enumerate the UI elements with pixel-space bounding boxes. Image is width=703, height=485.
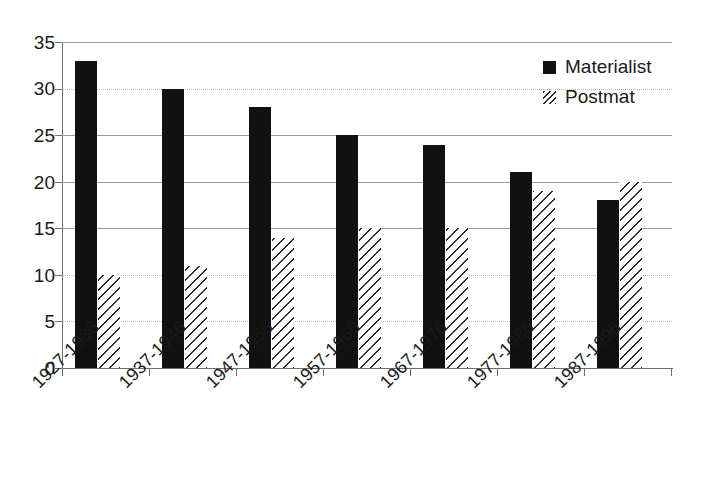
y-tick-label: 30	[20, 78, 55, 100]
bar-postmat	[97, 275, 120, 368]
gridline-35	[62, 42, 672, 43]
bar-postmat	[358, 228, 381, 368]
x-tick-mark	[671, 368, 672, 376]
legend-item-materialist: Materialist	[543, 52, 693, 82]
y-tick-mark	[55, 275, 62, 276]
y-tick-mark	[55, 228, 62, 229]
y-tick-mark	[55, 182, 62, 183]
y-tick-label: 25	[20, 125, 55, 147]
legend-item-postmat: Postmat	[543, 82, 693, 112]
y-tick-label: 10	[20, 265, 55, 287]
gridline-25	[62, 135, 672, 136]
y-tick-label: 35	[20, 32, 55, 54]
chart-legend: Materialist Postmat	[543, 52, 693, 112]
bar-postmat	[445, 228, 468, 368]
y-tick-mark	[55, 42, 62, 43]
solid-square-icon	[543, 61, 556, 74]
hatched-square-icon	[543, 91, 556, 104]
legend-label: Materialist	[565, 56, 652, 78]
y-tick-label: 20	[20, 172, 55, 194]
bar-postmat	[271, 238, 294, 368]
y-tick-label: 15	[20, 218, 55, 240]
y-tick-mark	[55, 135, 62, 136]
legend-label: Postmat	[565, 86, 635, 108]
y-tick-mark	[55, 321, 62, 322]
bar-postmat	[184, 266, 207, 368]
bar-chart: 35 30 25 20 15 10 5 0	[0, 0, 703, 485]
y-tick-label: 5	[20, 311, 55, 333]
gridline-20	[62, 182, 672, 183]
y-tick-mark	[55, 89, 62, 90]
bar-postmat	[619, 182, 642, 368]
bar-postmat	[532, 191, 555, 368]
